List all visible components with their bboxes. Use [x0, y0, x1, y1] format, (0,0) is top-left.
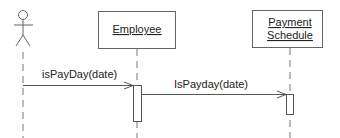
actor-icon	[14, 11, 33, 47]
object-payment-schedule: Payment Schedule	[253, 11, 323, 48]
message-ispayday-2: IsPayday(date)	[142, 78, 287, 98]
message-ispayday: isPayDay(date)	[23, 68, 133, 89]
sequence-diagram: Employee Payment Schedule isPayDay(date)…	[0, 0, 340, 138]
object-employee-label: Employee	[113, 23, 162, 35]
object-payment-schedule-label-line2: Schedule	[267, 29, 313, 41]
message-ispayday-label: isPayDay(date)	[42, 68, 117, 80]
payment-schedule-activation-bar	[287, 95, 294, 115]
employee-activation-bar	[134, 86, 142, 122]
object-payment-schedule-label-line1: Payment	[268, 16, 311, 28]
object-employee: Employee	[99, 12, 176, 49]
message-ispayday-2-label: IsPayday(date)	[174, 78, 248, 90]
